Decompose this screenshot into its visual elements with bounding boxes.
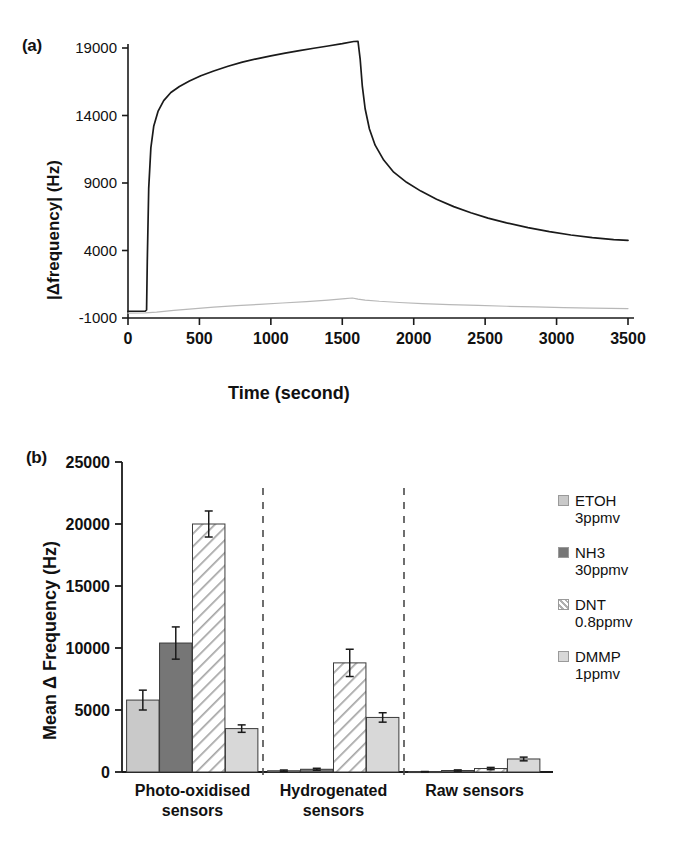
panel-b-legend: ETOH3ppmvNH330ppmvDNT0.8ppmvDMMP1ppmv xyxy=(558,492,686,700)
panel-a-tag: (a) xyxy=(22,36,42,56)
legend-item[interactable]: NH330ppmv xyxy=(558,544,686,578)
panel-b-ytick-label: 5000 xyxy=(74,702,110,719)
panel-b-bar xyxy=(160,643,192,772)
panel-b-bar xyxy=(193,524,225,772)
legend-analyte-name: DMMP xyxy=(575,648,621,665)
panel-a-xtick-label: 0 xyxy=(124,330,133,347)
figure-container: (a) |Δfrequency| (Hz) Time (second) -100… xyxy=(0,0,687,855)
panel-b-ytick-label: 15000 xyxy=(66,578,111,595)
panel-a: (a) |Δfrequency| (Hz) Time (second) -100… xyxy=(0,0,687,420)
panel-a-xtick-label: 1000 xyxy=(253,330,289,347)
panel-b-ytick-label: 25000 xyxy=(66,454,111,471)
legend-swatch-icon xyxy=(558,599,569,610)
panel-b-ytick-label: 20000 xyxy=(66,516,111,533)
panel-a-xtick-label: 2000 xyxy=(396,330,432,347)
legend-analyte-name: ETOH xyxy=(575,492,616,509)
legend-concentration: 30ppmv xyxy=(575,561,628,578)
legend-item[interactable]: DMMP1ppmv xyxy=(558,648,686,682)
panel-b-bar xyxy=(334,663,366,772)
panel-a-plot: -100040009000140001900005001000150020002… xyxy=(0,0,687,420)
panel-b-tag: (b) xyxy=(26,448,47,468)
legend-concentration: 1ppmv xyxy=(575,665,621,682)
panel-a-ytick-label: 9000 xyxy=(84,174,117,191)
panel-a-xtick-label: 1500 xyxy=(324,330,360,347)
panel-b-ytick-label: 10000 xyxy=(66,640,111,657)
panel-a-ytick-label: 19000 xyxy=(75,39,117,56)
panel-b-bar xyxy=(366,717,398,772)
panel-b-category-label: Hydrogenated xyxy=(280,782,388,799)
panel-b-ytick-label: 0 xyxy=(101,764,110,781)
legend-swatch-icon xyxy=(558,495,569,506)
panel-a-series-reference-curve xyxy=(128,298,628,313)
legend-label: DMMP1ppmv xyxy=(575,648,621,682)
legend-swatch-icon xyxy=(558,651,569,662)
panel-b-category-label-line2: sensors xyxy=(162,802,223,819)
panel-a-xtick-label: 3000 xyxy=(539,330,575,347)
legend-label: DNT0.8ppmv xyxy=(575,596,633,630)
panel-b-category-label: Raw sensors xyxy=(425,782,524,799)
legend-swatch-icon xyxy=(558,547,569,558)
panel-b-error-bar xyxy=(454,770,462,771)
legend-item[interactable]: DNT0.8ppmv xyxy=(558,596,686,630)
panel-a-xtick-label: 2500 xyxy=(467,330,503,347)
legend-concentration: 0.8ppmv xyxy=(575,613,633,630)
panel-a-ylabel: |Δfrequency| (Hz) xyxy=(44,160,64,300)
panel-a-ytick-label: -1000 xyxy=(79,309,117,326)
panel-b-category-label-line2: sensors xyxy=(303,802,364,819)
panel-b-error-bar xyxy=(280,770,288,771)
legend-label: ETOH3ppmv xyxy=(575,492,620,526)
legend-analyte-name: NH3 xyxy=(575,544,605,561)
panel-b-ylabel: Mean Δ Frequency (Hz) xyxy=(40,541,61,740)
legend-item[interactable]: ETOH3ppmv xyxy=(558,492,686,526)
panel-a-ytick-label: 4000 xyxy=(84,242,117,259)
panel-a-xlabel: Time (second) xyxy=(228,383,350,404)
panel-a-xtick-label: 3500 xyxy=(610,330,646,347)
legend-concentration: 3ppmv xyxy=(575,509,620,526)
legend-label: NH330ppmv xyxy=(575,544,628,578)
panel-a-xtick-label: 500 xyxy=(186,330,213,347)
panel-a-ytick-label: 14000 xyxy=(75,107,117,124)
panel-b-bar xyxy=(225,729,257,772)
legend-analyte-name: DNT xyxy=(575,596,606,613)
panel-a-series-response-curve xyxy=(128,41,628,311)
panel-b-bar xyxy=(127,700,159,772)
panel-b-category-label: Photo-oxidised xyxy=(135,782,251,799)
